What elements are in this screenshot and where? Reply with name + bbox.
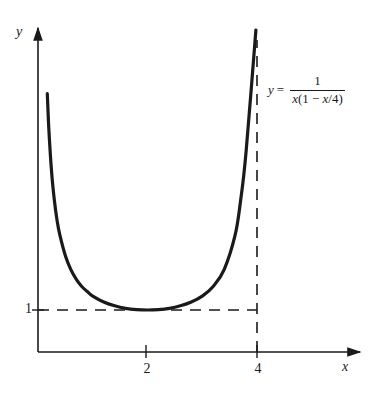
curve-reciprocal	[47, 30, 256, 310]
equation-denominator: x(1 − x/4)	[290, 91, 345, 107]
y-axis-label: y	[16, 25, 22, 39]
figure-graph: y x 2 4 1 y = 1 x(1 − x/4)	[0, 0, 383, 393]
equation-lhs: y	[268, 83, 274, 98]
equation-denominator-close: /4)	[328, 91, 342, 106]
equation-fraction: 1 x(1 − x/4)	[290, 74, 345, 107]
equation-numerator: 1	[308, 74, 327, 90]
y-tick-label-1: 1	[18, 302, 32, 316]
plot-canvas	[0, 0, 383, 393]
x-tick-label-2: 2	[139, 362, 155, 376]
x-axis-label: x	[342, 360, 348, 374]
equation-equals-sign: =	[277, 83, 284, 98]
x-tick-label-4: 4	[250, 362, 266, 376]
equation-annotation: y = 1 x(1 − x/4)	[268, 74, 345, 107]
equation-denominator-open: (1 −	[298, 91, 323, 106]
